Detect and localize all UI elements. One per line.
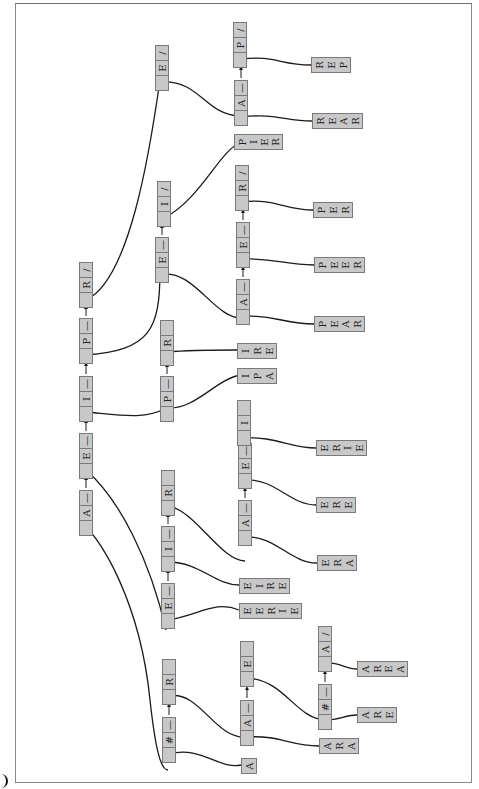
node-letter-cell: A <box>240 715 254 731</box>
node-next-cell: — <box>79 490 93 506</box>
word-leaf: REP <box>311 57 351 73</box>
node-letter-cell: I <box>237 415 251 431</box>
node-next-cell: — <box>240 700 254 716</box>
word-leaf: ERE <box>316 497 356 513</box>
trie-node: /R <box>79 262 93 307</box>
word-leaf: ARE <box>357 707 397 723</box>
word-leaf: EERIE <box>239 603 302 619</box>
edge-curve <box>243 316 314 324</box>
node-child-cell <box>238 530 252 546</box>
node-next-cell: / <box>79 262 93 278</box>
node-next-cell: / <box>157 181 171 197</box>
node-letter-cell: R <box>79 277 93 293</box>
edge-curve <box>169 695 247 737</box>
word-letter: R <box>351 317 365 331</box>
node-glyph: — <box>237 223 251 237</box>
edge-curve <box>245 537 317 563</box>
node-next-cell: — <box>162 717 176 733</box>
node-glyph: — <box>239 444 253 458</box>
node-child-cell <box>161 613 175 629</box>
trie-node: —A <box>240 700 254 745</box>
node-child-cell <box>237 430 251 446</box>
trie-node: E <box>240 641 254 686</box>
edge-curve <box>168 562 239 585</box>
word-letter: P <box>337 58 351 72</box>
trie-node: —P <box>160 376 174 421</box>
trie-node: —# <box>318 684 332 729</box>
node-letter-cell: I <box>157 196 171 212</box>
node-glyph: R <box>236 181 250 195</box>
node-letter-cell: I <box>161 541 175 557</box>
node-glyph: A <box>235 96 249 110</box>
node-child-cell <box>155 75 169 91</box>
trie-node: —A <box>238 500 252 545</box>
node-glyph: — <box>162 584 176 598</box>
word-leaf: A <box>241 758 257 774</box>
word-letter: E <box>383 708 397 722</box>
word-letter: R <box>351 258 365 272</box>
node-letter-cell: A <box>236 294 250 310</box>
node-glyph: E <box>156 253 170 267</box>
node-letter-cell: E <box>238 458 252 474</box>
word-leaf: IPA <box>237 368 277 384</box>
node-child-cell <box>79 292 93 308</box>
word-leaf: PER <box>313 202 353 218</box>
node-next-cell: / <box>155 45 169 61</box>
node-glyph: A <box>241 716 255 730</box>
trie-node: —P <box>79 318 93 363</box>
node-child-cell <box>157 211 171 227</box>
word-leaf: AREA <box>357 661 408 677</box>
word-leaf: PIER <box>234 134 283 150</box>
edge-curve <box>245 480 316 505</box>
node-letter-cell: A <box>318 641 332 657</box>
edge-curve <box>167 375 240 408</box>
node-next-cell: — <box>234 80 248 96</box>
trie-node: —A <box>236 279 250 324</box>
node-letter-cell: A <box>238 515 252 531</box>
word-leaf: PEAR <box>314 316 365 332</box>
node-glyph: — <box>80 491 94 505</box>
node-child-cell <box>240 730 254 746</box>
node-next-cell: — <box>161 526 175 542</box>
node-glyph: A <box>239 516 253 530</box>
node-next-cell: — <box>318 684 332 700</box>
edge-curve <box>86 80 160 300</box>
node-glyph: E <box>237 238 251 252</box>
node-glyph: — <box>80 434 94 448</box>
node-glyph: P <box>234 38 248 52</box>
node-letter-cell: P <box>79 333 93 349</box>
node-glyph: E <box>80 449 94 463</box>
trie-node: —I <box>161 526 175 571</box>
node-child-cell <box>79 463 93 479</box>
node-glyph: P <box>80 334 94 348</box>
edge-curve <box>241 116 312 121</box>
edge-curve <box>247 737 319 746</box>
edge-curve <box>169 752 241 766</box>
node-letter-cell: E <box>240 656 254 672</box>
node-next-cell: / <box>318 626 332 642</box>
node-glyph: — <box>161 377 175 391</box>
node-child-cell <box>236 309 250 325</box>
word-letter: R <box>339 203 353 217</box>
node-next-cell: — <box>155 237 169 253</box>
trie-node: —E <box>236 222 250 267</box>
node-letter-cell: E <box>236 237 250 253</box>
node-next-cell: / <box>233 22 247 38</box>
node-glyph: I <box>158 197 172 211</box>
word-leaf: IRE <box>237 343 277 359</box>
node-letter-cell: A <box>234 95 248 111</box>
node-glyph: A <box>237 295 251 309</box>
edge-curve <box>162 274 243 318</box>
node-glyph: / <box>156 46 170 60</box>
trie-node: —E <box>238 443 252 488</box>
word-letter: E <box>288 604 302 618</box>
word-leaf: EIRE <box>239 578 290 594</box>
node-glyph: — <box>241 701 255 715</box>
trie-node: R <box>162 659 176 704</box>
node-glyph: R <box>161 336 175 350</box>
edge-curve <box>164 143 240 218</box>
edge-curve <box>168 506 245 561</box>
word-leaf: ARA <box>319 738 359 754</box>
node-glyph: / <box>234 23 248 37</box>
node-letter-cell: E <box>155 252 169 268</box>
